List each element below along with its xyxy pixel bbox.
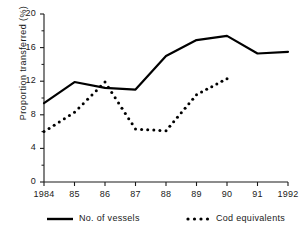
x-tick-label: 90	[210, 189, 244, 199]
x-tick-label: 91	[241, 189, 275, 199]
chart-figure: Proportion transferred (%) 048121620 198…	[0, 0, 305, 237]
y-tick-label: 12	[14, 75, 36, 85]
y-tick-label: 0	[14, 176, 36, 186]
x-tick-label: 1992	[271, 189, 305, 199]
legend-item-label: Cod equivalents	[216, 213, 285, 223]
y-tick-label: 16	[14, 42, 36, 52]
y-tick-label: 8	[14, 109, 36, 119]
legend-item-label: No. of vessels	[79, 213, 140, 223]
x-tick-label: 88	[149, 189, 183, 199]
legend-swatch-dotted	[186, 217, 209, 220]
x-tick-label: 87	[119, 189, 153, 199]
x-tick-label: 1984	[27, 189, 61, 199]
chart-series-layer	[43, 36, 289, 133]
chart-plot-area	[0, 0, 305, 237]
y-tick-label: 20	[14, 8, 36, 18]
y-tick-label: 4	[14, 142, 36, 152]
x-tick-label: 89	[180, 189, 214, 199]
x-tick-label: 85	[58, 189, 92, 199]
chart-axes	[40, 14, 288, 186]
series-line-0	[44, 36, 288, 103]
x-tick-label: 86	[88, 189, 122, 199]
